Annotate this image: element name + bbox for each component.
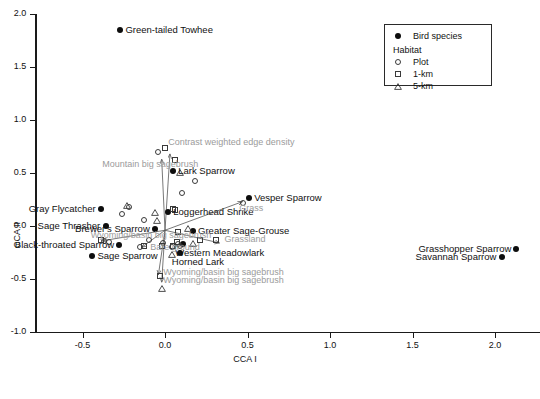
open-square-icon <box>391 71 405 77</box>
legend-row-bird-species[interactable]: Bird species <box>391 31 462 41</box>
habitat-point-1km <box>141 243 147 249</box>
y-tick <box>30 14 36 15</box>
legend-label: 1-km <box>413 69 433 79</box>
x-tick <box>165 333 166 338</box>
x-tick-label: -0.5 <box>69 340 97 350</box>
env-variable-label: Bare ground <box>150 243 200 252</box>
x-tick-label: 0.5 <box>234 340 262 350</box>
species-label: Savannah Sparrow <box>416 252 497 262</box>
habitat-point-1km <box>162 145 168 151</box>
x-tick <box>413 333 414 338</box>
habitat-point-plot <box>155 149 161 155</box>
species-point <box>98 206 104 212</box>
legend-label: Plot <box>413 57 429 67</box>
species-point <box>499 254 505 260</box>
x-axis-line <box>36 332 540 333</box>
env-variable-label: Wyoming/basin big sagebrush <box>163 276 284 285</box>
y-tick <box>30 120 36 121</box>
habitat-point-5km <box>123 195 131 213</box>
env-variable-label: Grassland <box>224 235 265 244</box>
species-label: Green-tailed Towhee <box>125 25 213 35</box>
env-variable-label: Grass <box>239 204 263 213</box>
env-variable-label: Mountain big sagebrush <box>102 160 198 169</box>
legend-habitat-header: Habitat <box>393 45 422 55</box>
chart-legend: Bird speciesHabitatPlot1-km5-km <box>384 24 492 86</box>
x-tick <box>83 333 84 338</box>
y-tick <box>30 67 36 68</box>
habitat-point-plot <box>179 190 185 196</box>
species-label: Sage Sparrow <box>97 251 157 261</box>
species-label: Horned Lark <box>172 257 224 267</box>
y-tick-label: -1.0 <box>0 326 26 336</box>
habitat-point-plot <box>141 217 147 223</box>
habitat-point-5km <box>153 210 161 228</box>
legend-row-1-km[interactable]: 1-km <box>391 69 433 79</box>
x-tick-label: 1.0 <box>316 340 344 350</box>
legend-row-5-km[interactable]: 5-km <box>391 81 433 91</box>
x-tick <box>330 333 331 338</box>
y-tick-label: 2.0 <box>0 8 26 18</box>
x-tick <box>248 333 249 338</box>
species-label: Gray Flycatcher <box>29 204 96 214</box>
x-tick-label: 0.0 <box>151 340 179 350</box>
y-tick <box>30 173 36 174</box>
legend-row-plot[interactable]: Plot <box>391 57 429 67</box>
y-tick-label: -0.5 <box>0 273 26 283</box>
legend-label: Bird species <box>413 31 462 41</box>
y-tick-label: 1.5 <box>0 61 26 71</box>
species-point <box>116 242 122 248</box>
y-tick-label: 1.0 <box>0 114 26 124</box>
species-point <box>117 27 123 33</box>
x-tick <box>495 333 496 338</box>
legend-label: 5-km <box>413 81 433 91</box>
open-triangle-icon <box>391 83 405 90</box>
x-axis-title: CCA I <box>233 354 257 364</box>
habitat-point-1km <box>213 237 219 243</box>
y-tick-label: 0.5 <box>0 167 26 177</box>
species-point <box>246 195 252 201</box>
open-circle-icon <box>391 59 405 65</box>
species-point <box>513 246 519 252</box>
env-variable-label: Contrast weighted edge density <box>168 138 294 147</box>
y-tick <box>30 332 36 333</box>
cca-ordination-plot: -1.0-0.50.00.51.01.52.0-0.50.00.51.01.52… <box>0 0 540 399</box>
env-vector-arrow <box>162 159 165 230</box>
species-label: Vesper Sparrow <box>254 193 322 203</box>
x-tick-label: 2.0 <box>481 340 509 350</box>
species-point <box>89 253 95 259</box>
y-tick <box>30 279 36 280</box>
filled-circle-icon <box>391 33 405 39</box>
habitat-point-plot <box>192 178 198 184</box>
species-label: Black-throated Sparrow <box>15 240 114 250</box>
y-tick <box>30 226 36 227</box>
x-tick-label: 1.5 <box>399 340 427 350</box>
env-variable-label: Wyoming/basin big sagebrush <box>91 231 212 240</box>
